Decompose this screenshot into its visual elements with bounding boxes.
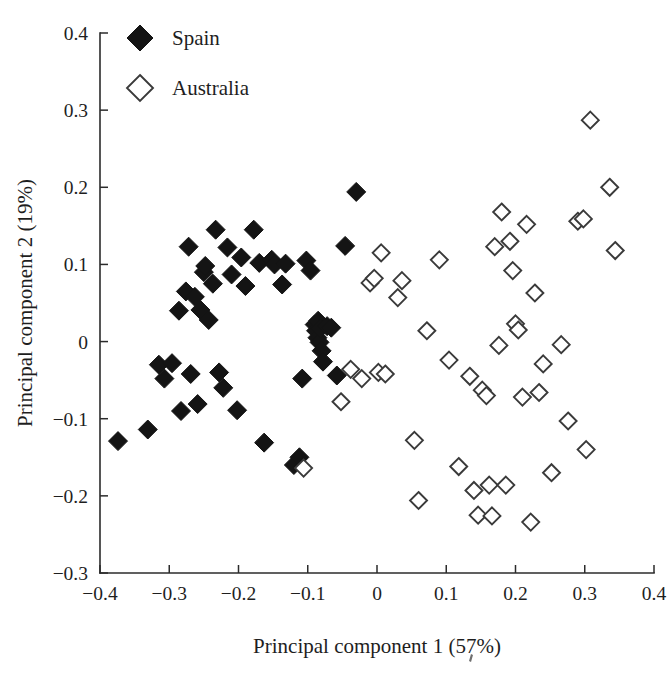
y-tick-label: 0.1	[64, 254, 88, 275]
x-axis-tick-labels: −0.4−0.3−0.2−0.100.10.20.30.4	[82, 583, 666, 604]
y-tick-label: 0	[78, 332, 88, 353]
legend-label-spain: Spain	[172, 26, 220, 50]
y-tick-label: 0.3	[64, 100, 88, 121]
y-tick-label: −0.3	[53, 563, 88, 584]
x-tick-label: −0.3	[152, 583, 187, 604]
y-tick-label: 0.4	[64, 23, 89, 44]
x-tick-label: 0.2	[503, 583, 527, 604]
x-tick-label: 0.4	[642, 583, 667, 604]
y-tick-label: −0.1	[53, 409, 88, 430]
x-tick-label: −0.1	[290, 583, 325, 604]
x-tick-label: −0.2	[221, 583, 256, 604]
legend-label-australia: Australia	[172, 76, 250, 100]
x-tick-label: −0.4	[82, 583, 118, 604]
x-tick-label: 0	[372, 583, 382, 604]
x-axis-title: Principal component 1 (57%)	[253, 634, 501, 658]
x-tick-label: 0.3	[573, 583, 597, 604]
y-axis-title: Principal component 2 (19%)	[13, 179, 37, 427]
pca-scatter-chart: −0.3−0.2−0.100.10.20.30.4 −0.4−0.3−0.2−0…	[0, 0, 672, 677]
x-tick-label: 0.1	[434, 583, 458, 604]
y-tick-label: 0.2	[64, 177, 88, 198]
y-tick-label: −0.2	[53, 486, 88, 507]
